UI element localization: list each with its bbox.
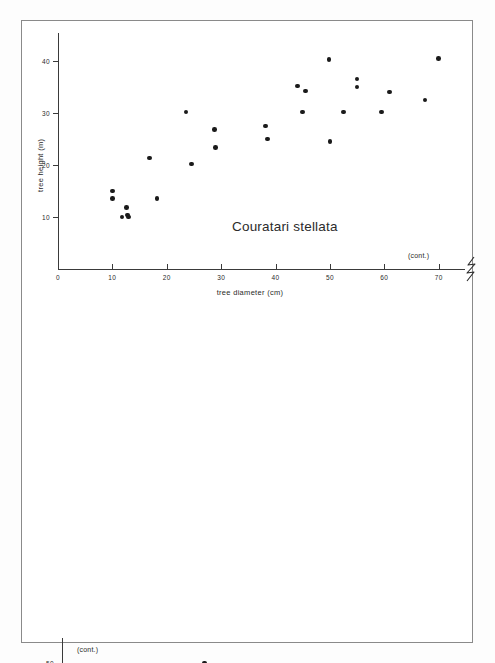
data-point (189, 162, 194, 167)
axis-break-icon (463, 256, 479, 286)
figure-page: 10203040010203040506070tree diameter (cm… (0, 0, 495, 663)
data-point (184, 110, 189, 115)
data-point (387, 90, 392, 95)
x-axis-tick (221, 264, 222, 269)
x-axis-tick (330, 264, 331, 269)
data-point (295, 84, 300, 89)
x-axis-tick-label: 40 (272, 274, 280, 281)
y-axis-tick-label: 40 (26, 57, 50, 64)
x-axis-tick-label: 30 (217, 274, 225, 281)
x-axis-tick-label: 70 (435, 274, 443, 281)
x-axis-tick (384, 264, 385, 269)
data-point (379, 110, 384, 115)
data-point (265, 137, 270, 142)
data-point (341, 110, 346, 115)
x-axis-tick (167, 264, 168, 269)
scatter-plot-top: 10203040010203040506070tree diameter (cm… (0, 0, 495, 330)
y-axis-tick (53, 61, 58, 62)
scatter-plot-bottom: 10203040508090100110120130140150tree dia… (0, 312, 495, 663)
species-name-label: Couratari stellata (232, 219, 338, 234)
data-point (110, 196, 115, 201)
data-point (355, 77, 360, 82)
x-axis-tick (112, 264, 113, 269)
y-axis-title: tree height (m) (36, 139, 45, 192)
data-point (213, 145, 218, 150)
data-point (423, 98, 428, 103)
y-axis-tick-label: 10 (26, 213, 50, 220)
y-axis-tick-label: 30 (26, 109, 50, 116)
data-point (327, 57, 332, 62)
data-point (263, 124, 268, 129)
continuation-label: (cont.) (408, 252, 429, 259)
x-axis-title: tree diameter (cm) (217, 288, 284, 297)
y-axis-tick (53, 113, 58, 114)
x-axis-tick (58, 264, 59, 269)
data-point (300, 110, 305, 115)
data-point (328, 139, 333, 144)
y-axis-tick-label: 50 (30, 659, 54, 663)
data-point (147, 156, 152, 161)
y-axis-line (58, 33, 59, 269)
data-point (355, 85, 360, 90)
continuation-label: (cont.) (77, 646, 98, 653)
y-axis-tick (53, 165, 58, 166)
data-point (303, 89, 308, 94)
x-axis-tick-label: 0 (56, 274, 60, 281)
data-point (124, 205, 129, 210)
data-point (126, 215, 131, 220)
data-point (155, 196, 160, 201)
data-point (110, 189, 115, 194)
data-point (120, 215, 125, 220)
y-axis-tick (53, 217, 58, 218)
x-axis-tick-label: 20 (163, 274, 171, 281)
x-axis-tick (439, 264, 440, 269)
x-axis-tick (276, 264, 277, 269)
x-axis-tick-label: 50 (326, 274, 334, 281)
x-axis-line (58, 269, 465, 270)
y-axis-line (62, 638, 63, 663)
x-axis-tick-label: 10 (108, 274, 116, 281)
data-point (212, 127, 217, 132)
x-axis-tick-label: 60 (380, 274, 388, 281)
data-point (436, 56, 441, 61)
